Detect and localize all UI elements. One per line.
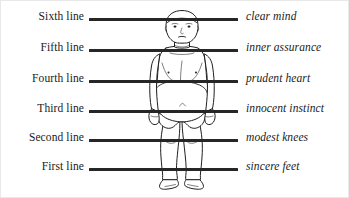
horizontal-rule-fourth [89, 80, 238, 83]
left-label-third: Third line [37, 102, 84, 114]
left-label-first: First line [42, 160, 84, 172]
horizontal-rule-second [89, 139, 238, 142]
right-label-sixth: clear mind [246, 10, 297, 22]
horizontal-rule-first [89, 168, 238, 171]
right-label-second: modest knees [246, 131, 308, 143]
horizontal-rule-fifth [89, 49, 238, 52]
left-label-sixth: Sixth line [39, 10, 84, 22]
right-label-fifth: inner assurance [246, 41, 321, 53]
left-label-second: Second line [29, 131, 84, 143]
horizontal-rule-third [89, 110, 238, 113]
left-label-fourth: Fourth line [32, 72, 84, 84]
left-label-fifth: Fifth line [41, 41, 85, 53]
right-label-first: sincere feet [246, 160, 299, 172]
horizontal-rule-sixth [89, 18, 238, 21]
right-label-fourth: prudent heart [246, 72, 310, 84]
body-lines-diagram: Sixth line clear mind Fifth line inner a… [0, 0, 349, 198]
right-label-third: innocent instinct [246, 102, 324, 114]
